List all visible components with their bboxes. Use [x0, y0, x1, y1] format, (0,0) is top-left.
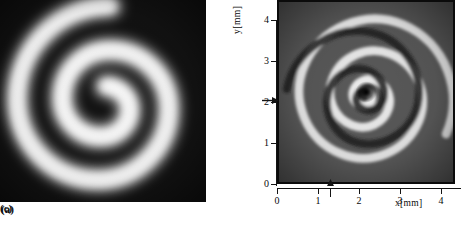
y-axis-tick-label: 0: [264, 179, 269, 189]
x-axis-tick-label: 2: [357, 196, 362, 206]
x-axis-marker-stem: [330, 188, 331, 197]
x-axis-tick: [441, 188, 442, 194]
x-axis-tick-label: 4: [439, 196, 444, 206]
y-axis-tick-label: 1: [264, 138, 269, 148]
x-axis-tick-label: 0: [275, 196, 280, 206]
y-axis-title-symbol: y: [232, 29, 242, 34]
x-axis-tick: [277, 188, 278, 194]
y-axis-marker-arrow-icon: [262, 96, 279, 105]
x-axis-title: x[mm]: [395, 199, 422, 209]
x-axis-title-unit: [mm]: [400, 198, 422, 208]
y-axis-tick: [271, 20, 277, 21]
x-axis-tick: [400, 188, 401, 194]
y-axis-tick-label: 3: [264, 56, 269, 66]
panel-c-label: (c): [0, 203, 12, 214]
x-axis: 0 1 2 3 4 x[mm]: [277, 188, 461, 196]
panel-c: 4 3 2 1 0 y[mm] 0 1 2 3 4 x[mm]: [232, 0, 463, 229]
panel-a: [0, 0, 206, 202]
x-axis-tick: [359, 188, 360, 194]
spiral-wave-image-a: [0, 0, 206, 202]
y-axis-tick-label: 4: [264, 15, 269, 25]
y-axis-title-unit: [mm]: [232, 6, 242, 29]
x-axis-tick: [318, 188, 319, 194]
x-axis-tick-label: 1: [316, 196, 321, 206]
spiral-wave-image-c: [277, 0, 455, 184]
y-axis-title: y[mm]: [233, 6, 243, 34]
y-axis-tick: [271, 143, 277, 144]
y-axis-tick: [271, 184, 277, 185]
x-axis-line: [277, 188, 461, 189]
y-axis-tick: [271, 61, 277, 62]
